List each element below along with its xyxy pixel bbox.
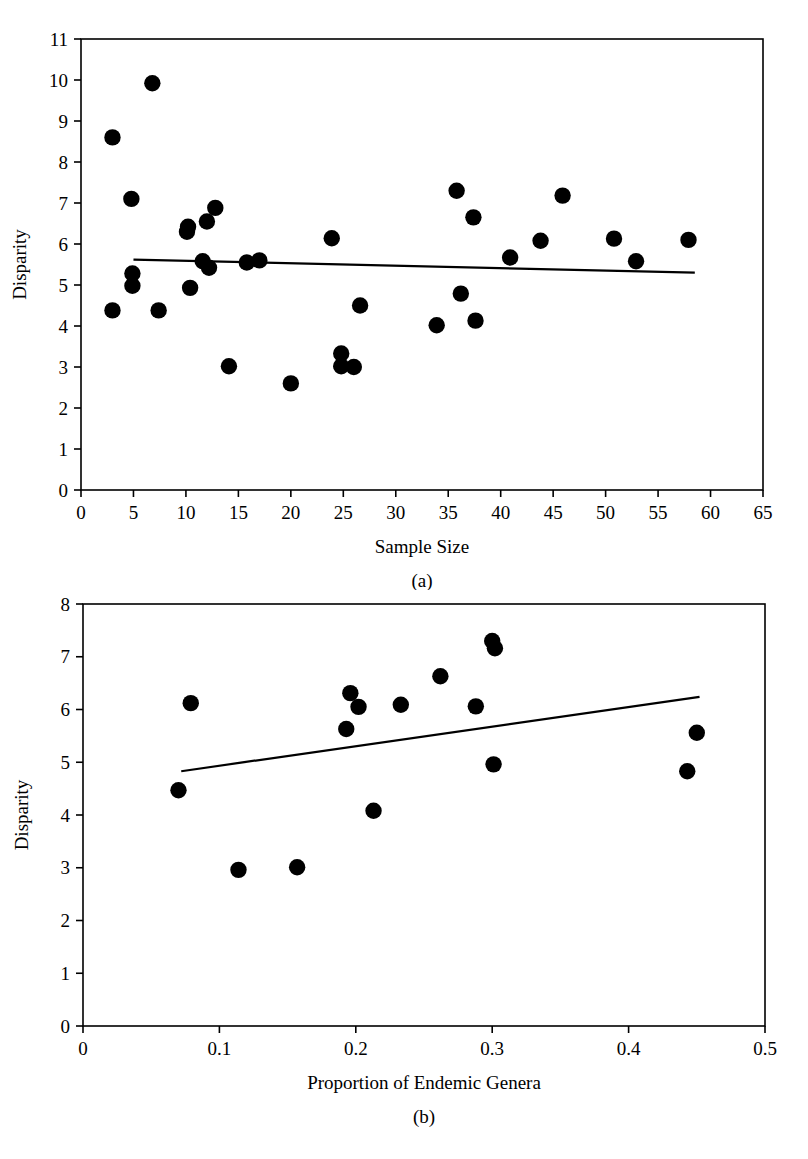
panel-a: 01234567891011 0510152025303540455055606… xyxy=(0,0,808,590)
panel-b-y-axis: 012345678 xyxy=(61,594,84,1037)
y-tick-label: 0 xyxy=(61,1016,71,1037)
data-point xyxy=(289,859,305,875)
x-tick-label: 0 xyxy=(76,502,86,523)
x-tick-label: 0.4 xyxy=(617,1038,641,1059)
y-tick-label: 1 xyxy=(59,439,69,460)
x-tick-label: 0.3 xyxy=(480,1038,504,1059)
x-tick-label: 0.2 xyxy=(344,1038,368,1059)
data-point xyxy=(689,725,705,741)
data-point xyxy=(183,695,199,711)
data-point xyxy=(182,280,198,296)
data-point xyxy=(465,209,481,225)
panel-a-regression-line xyxy=(133,260,694,273)
figure-container: 01234567891011 0510152025303540455055606… xyxy=(0,0,808,1159)
y-tick-label: 1 xyxy=(61,963,71,984)
x-tick-label: 25 xyxy=(334,502,353,523)
panel-b-regression-line xyxy=(181,697,699,771)
y-tick-label: 3 xyxy=(59,357,69,378)
data-point xyxy=(342,685,358,701)
data-point xyxy=(324,230,340,246)
data-point xyxy=(679,763,695,779)
x-tick-label: 50 xyxy=(596,502,615,523)
data-point xyxy=(532,233,548,249)
data-point xyxy=(468,698,484,714)
data-point xyxy=(123,191,139,207)
data-point xyxy=(199,213,215,229)
data-point xyxy=(124,278,140,294)
data-point xyxy=(104,129,120,145)
panel-a-frame xyxy=(81,39,763,490)
x-tick-label: 10 xyxy=(176,502,195,523)
x-tick-label: 20 xyxy=(281,502,300,523)
x-tick-label: 0 xyxy=(78,1038,88,1059)
data-point xyxy=(346,359,362,375)
data-point xyxy=(487,640,503,656)
panel-a-x-axis-label: Sample Size xyxy=(375,536,469,557)
y-tick-label: 6 xyxy=(59,234,69,255)
data-point xyxy=(453,285,469,301)
y-tick-label: 10 xyxy=(49,70,68,91)
panel-a-plot: 01234567891011 0510152025303540455055606… xyxy=(0,0,808,590)
x-tick-label: 15 xyxy=(229,502,248,523)
data-point xyxy=(350,699,366,715)
y-tick-label: 0 xyxy=(59,480,69,501)
y-tick-label: 7 xyxy=(59,193,69,214)
panel-a-y-axis: 01234567891011 xyxy=(49,29,81,501)
panel-b-plot: 012345678 00.10.20.30.40.5 Disparity Pro… xyxy=(0,566,808,1159)
data-point xyxy=(448,183,464,199)
panel-b-caption: (b) xyxy=(413,1106,435,1128)
y-tick-label: 5 xyxy=(61,752,71,773)
panel-a-points xyxy=(104,75,696,392)
x-tick-label: 65 xyxy=(754,502,773,523)
y-tick-label: 8 xyxy=(61,594,71,615)
data-point xyxy=(283,375,299,391)
data-point xyxy=(432,668,448,684)
data-point xyxy=(150,302,166,318)
x-tick-label: 30 xyxy=(386,502,405,523)
data-point xyxy=(180,219,196,235)
data-point xyxy=(467,312,483,328)
data-point xyxy=(338,721,354,737)
data-point xyxy=(230,862,246,878)
x-tick-label: 60 xyxy=(701,502,720,523)
data-point xyxy=(485,756,501,772)
y-tick-label: 9 xyxy=(59,111,69,132)
panel-b-x-axis: 00.10.20.30.40.5 xyxy=(78,1026,777,1059)
x-tick-label: 45 xyxy=(544,502,563,523)
panel-b-y-axis-label: Disparity xyxy=(11,779,32,850)
panel-b: 012345678 00.10.20.30.40.5 Disparity Pro… xyxy=(0,566,808,1159)
data-point xyxy=(606,230,622,246)
y-tick-label: 8 xyxy=(59,152,69,173)
panel-b-points xyxy=(170,633,705,878)
y-tick-label: 11 xyxy=(50,29,68,50)
data-point xyxy=(680,232,696,248)
data-point xyxy=(365,803,381,819)
data-point xyxy=(170,782,186,798)
data-point xyxy=(251,252,267,268)
panel-a-x-axis: 05101520253035404550556065 xyxy=(76,490,772,523)
data-point xyxy=(144,75,160,91)
y-tick-label: 4 xyxy=(61,805,71,826)
x-tick-label: 5 xyxy=(129,502,139,523)
data-point xyxy=(628,253,644,269)
x-tick-label: 0.1 xyxy=(208,1038,232,1059)
data-point xyxy=(207,200,223,216)
y-tick-label: 6 xyxy=(61,699,71,720)
data-point xyxy=(352,297,368,313)
x-tick-label: 55 xyxy=(649,502,668,523)
y-tick-label: 3 xyxy=(61,857,71,878)
panel-a-y-axis-label: Disparity xyxy=(9,229,30,300)
data-point xyxy=(104,302,120,318)
panel-b-x-axis-label: Proportion of Endemic Genera xyxy=(307,1072,541,1093)
x-tick-label: 40 xyxy=(491,502,510,523)
y-tick-label: 5 xyxy=(59,275,69,296)
data-point xyxy=(502,249,518,265)
y-tick-label: 2 xyxy=(61,910,71,931)
data-point xyxy=(393,697,409,713)
y-tick-label: 2 xyxy=(59,398,69,419)
panel-b-frame xyxy=(83,604,765,1026)
x-tick-label: 0.5 xyxy=(753,1038,777,1059)
data-point xyxy=(554,187,570,203)
y-tick-label: 4 xyxy=(59,316,69,337)
data-point xyxy=(428,317,444,333)
